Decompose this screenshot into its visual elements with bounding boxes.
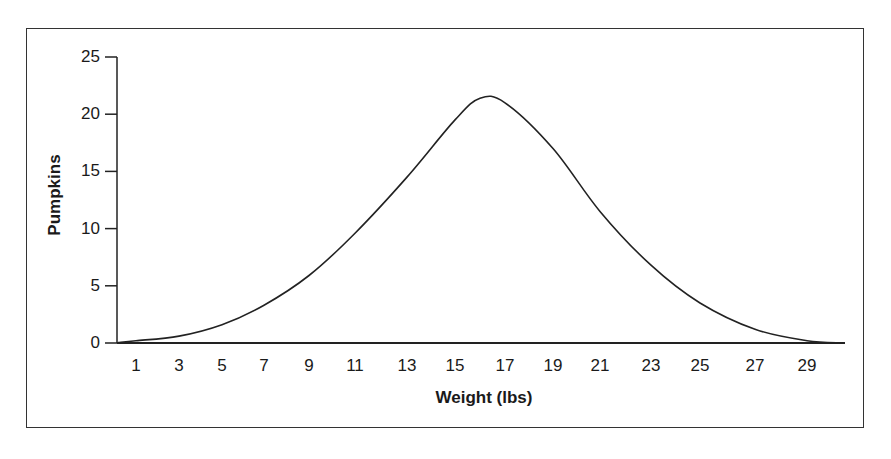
x-tick-label: 21 (580, 357, 620, 374)
y-tick-label: 20 (60, 105, 100, 122)
y-tick-label: 10 (60, 220, 100, 237)
x-tick-label: 25 (680, 357, 720, 374)
x-tick-label: 17 (485, 357, 525, 374)
x-tick-label: 5 (202, 357, 242, 374)
x-tick-label: 19 (533, 357, 573, 374)
x-tick-label: 7 (244, 357, 284, 374)
x-tick-label: 23 (631, 357, 671, 374)
x-tick-label: 11 (335, 357, 375, 374)
y-tick-label: 5 (60, 277, 100, 294)
x-tick-label: 29 (787, 357, 827, 374)
x-tick-label: 3 (159, 357, 199, 374)
x-tick-label: 1 (116, 357, 156, 374)
x-tick-label: 15 (435, 357, 475, 374)
y-tick-label: 0 (60, 334, 100, 351)
x-tick-label: 27 (735, 357, 775, 374)
distribution-curve (118, 96, 843, 343)
x-tick-label: 9 (289, 357, 329, 374)
y-axis-title: Pumpkins (45, 154, 65, 235)
x-tick-label: 13 (387, 357, 427, 374)
y-tick-label: 15 (60, 162, 100, 179)
x-axis-title: Weight (lbs) (384, 388, 584, 408)
y-tick-label: 25 (60, 48, 100, 65)
